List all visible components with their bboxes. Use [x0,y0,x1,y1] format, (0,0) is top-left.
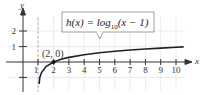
svg-text:5: 5 [97,65,102,75]
y-axis-label: y [19,0,24,10]
svg-text:3: 3 [67,65,72,75]
svg-text:1: 1 [34,65,39,75]
x-axis-label: x [194,56,199,66]
svg-text:8: 8 [143,65,148,75]
x-axis-arrow-icon [185,60,192,65]
log-function-graph: 1 2 3 4 5 6 7 8 9 10 1 2 x y (2, 0) h(x)… [0,0,204,95]
y-tick-labels: 1 2 [12,26,17,52]
svg-text:2: 2 [12,26,17,36]
svg-text:6: 6 [113,65,118,75]
svg-text:4: 4 [82,65,87,75]
svg-text:9: 9 [158,65,163,75]
svg-text:2: 2 [51,65,56,75]
svg-text:7: 7 [128,65,133,75]
function-callout: h(x) = log10(x − 1) [62,12,154,39]
x-tick-labels: 1 2 3 4 5 6 7 8 9 10 [34,65,181,75]
svg-text:1: 1 [12,42,17,52]
point-2-0 [52,60,56,64]
svg-text:10: 10 [172,65,182,75]
point-label: (2, 0) [42,48,64,60]
